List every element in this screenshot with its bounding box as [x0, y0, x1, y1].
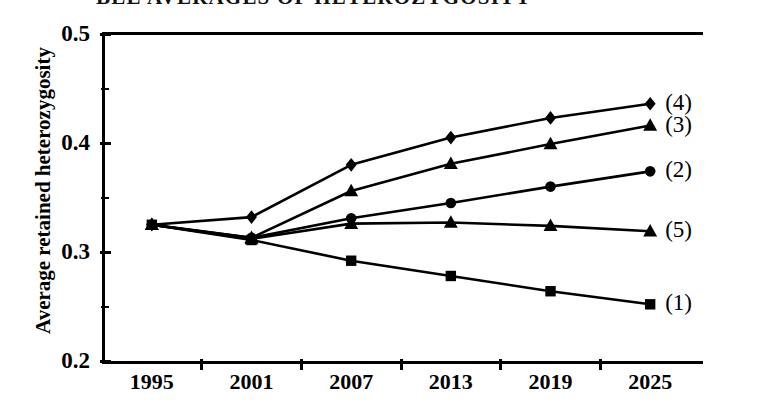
y-tick-major	[100, 251, 111, 254]
x-tick	[400, 359, 403, 370]
y-tick-label: 0.2	[28, 349, 90, 372]
series-label-1: (1)	[665, 291, 692, 314]
x-tick	[499, 359, 502, 370]
x-tick-label: 2019	[506, 371, 596, 393]
y-tick-minor	[101, 306, 109, 308]
clipped-title-strip: BLE AVERAGES OF HETEROZYGOSITY	[0, 0, 779, 12]
y-tick-major	[100, 33, 111, 36]
y-tick-label: 0.5	[28, 22, 90, 45]
x-tick	[200, 359, 203, 370]
x-tick-label: 2007	[306, 371, 396, 393]
y-tick-major	[100, 360, 111, 363]
plot-area	[102, 34, 703, 364]
figure-title: BLE AVERAGES OF HETEROZYGOSITY	[96, 0, 532, 10]
x-tick-label: 2001	[207, 371, 297, 393]
series-label-3: (3)	[665, 113, 692, 136]
series-label-2: (2)	[665, 158, 692, 181]
x-tick	[599, 359, 602, 370]
y-tick-minor	[101, 197, 109, 199]
x-tick-label: 2025	[605, 371, 695, 393]
series-label-4: (4)	[665, 91, 692, 114]
x-tick	[300, 359, 303, 370]
series-label-5: (5)	[665, 218, 692, 241]
y-tick-minor	[101, 88, 109, 90]
y-tick-label: 0.3	[28, 240, 90, 263]
x-tick-label: 2013	[406, 371, 496, 393]
y-tick-major	[100, 142, 111, 145]
chart-figure: BLE AVERAGES OF HETEROZYGOSITY Average r…	[0, 0, 779, 410]
y-tick-label: 0.4	[28, 131, 90, 154]
y-axis-title: Average retained heterozygosity	[31, 26, 56, 356]
x-tick-label: 1995	[107, 371, 197, 393]
